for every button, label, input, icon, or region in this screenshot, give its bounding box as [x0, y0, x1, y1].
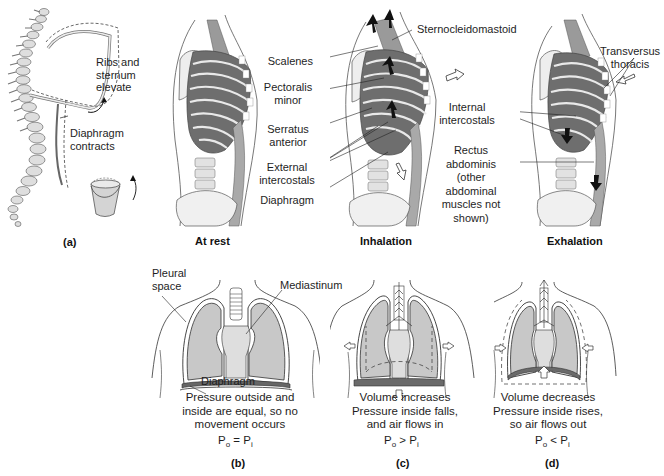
- lungs-exhalation-icon: [490, 260, 664, 400]
- caption-c: Volume increases Pressure inside falls, …: [340, 391, 470, 432]
- label-diaphragm-b: Diaphragm: [201, 375, 255, 388]
- label-ribs-elevate: Ribs and sternum elevate: [96, 56, 139, 94]
- title-inhalation: Inhalation: [360, 235, 412, 247]
- eq-op: >: [396, 434, 409, 446]
- bucket-handle-icon: [0, 0, 150, 230]
- panel-letter-c: (c): [396, 457, 409, 469]
- label-line: abdominal: [436, 185, 506, 199]
- label-line: space: [152, 280, 186, 293]
- label-sternocleidomastoid: Sternocleidomastoid: [417, 23, 517, 36]
- label-line: anterior: [262, 136, 314, 149]
- eq-term: P: [560, 434, 568, 446]
- label-line: intercostals: [436, 114, 498, 127]
- eq-term: P: [243, 434, 251, 446]
- label-serratus-anterior: Serratus anterior: [262, 123, 314, 149]
- title-exhalation: Exhalation: [547, 235, 603, 247]
- label-line: Serratus: [262, 123, 314, 136]
- eq-sub: i: [251, 440, 253, 449]
- equation-b: Po = Pi: [218, 434, 253, 449]
- label-line: muscles not: [436, 198, 506, 212]
- eq-term: P: [218, 434, 226, 446]
- label-line: Pectoralis: [262, 81, 314, 94]
- label-line: (other: [436, 171, 506, 185]
- label-internal-intercostals: Internal intercostals: [436, 101, 498, 127]
- torso-exhalation: [520, 0, 640, 230]
- label-external-intercostals: External intercostals: [256, 161, 318, 187]
- caption-line: Pressure inside falls,: [340, 405, 470, 419]
- label-line: Rectus: [436, 144, 506, 158]
- thorax-musculature-icon: [520, 0, 640, 230]
- panel-letter-d: (d): [545, 457, 559, 469]
- eq-op: =: [230, 434, 243, 446]
- caption-line: inside are equal, so no: [166, 405, 314, 419]
- eq-term: P: [535, 434, 543, 446]
- eq-term: P: [384, 434, 392, 446]
- caption-line: movement occurs: [166, 418, 314, 432]
- caption-d: Volume decreases Pressure inside rises, …: [488, 391, 608, 432]
- label-line: Diaphragm: [70, 127, 124, 140]
- panel-d: [490, 260, 664, 400]
- label-diaphragm-contracts: Diaphragm contracts: [70, 127, 124, 152]
- label-line: abdominis: [436, 158, 506, 172]
- eq-op: <: [547, 434, 560, 446]
- label-line: shown): [436, 212, 506, 226]
- caption-line: and air flows in: [340, 418, 470, 432]
- caption-line: Volume increases: [340, 391, 470, 405]
- label-line: sternum: [96, 69, 139, 82]
- eq-sub: i: [568, 440, 570, 449]
- label-line: intercostals: [256, 174, 318, 187]
- label-line: Ribs and: [96, 56, 139, 69]
- eq-sub: i: [417, 440, 419, 449]
- lungs-inhalation-icon: [330, 260, 500, 400]
- caption-line: Pressure outside and: [166, 391, 314, 405]
- label-scalenes: Scalenes: [265, 55, 313, 68]
- label-pleural-space: Pleural space: [152, 267, 186, 293]
- panel-a: Ribs and sternum elevate Diaphragm contr…: [0, 0, 150, 230]
- equation-d: Po < Pi: [535, 434, 570, 449]
- label-line: Pleural: [152, 267, 186, 280]
- label-line: External: [256, 161, 318, 174]
- label-transversus-thoracis: Transversus thoracis: [595, 45, 664, 71]
- caption-line: so air flows out: [488, 418, 608, 432]
- equation-c: Po > Pi: [384, 434, 419, 449]
- eq-term: P: [409, 434, 417, 446]
- label-diaphragm-muscle: Diaphragm: [258, 194, 314, 207]
- label-line: minor: [262, 94, 314, 107]
- caption-line: Pressure inside rises,: [488, 405, 608, 419]
- label-pectoralis-minor: Pectoralis minor: [262, 81, 314, 107]
- label-line: Transversus: [595, 45, 664, 58]
- label-line: Internal: [436, 101, 498, 114]
- panel-c: [330, 260, 500, 400]
- panel-letter-a: (a): [63, 236, 76, 248]
- curved-arrow-icon: [133, 178, 136, 200]
- label-line: elevate: [96, 81, 139, 94]
- panel-letter-b: (b): [231, 457, 245, 469]
- caption-b: Pressure outside and inside are equal, s…: [166, 391, 314, 432]
- caption-line: Volume decreases: [488, 391, 608, 405]
- label-line: thoracis: [595, 58, 664, 71]
- label-rectus-abdominis: Rectus abdominis (other abdominal muscle…: [436, 144, 506, 225]
- label-line: contracts: [70, 140, 124, 153]
- title-at-rest: At rest: [195, 235, 230, 247]
